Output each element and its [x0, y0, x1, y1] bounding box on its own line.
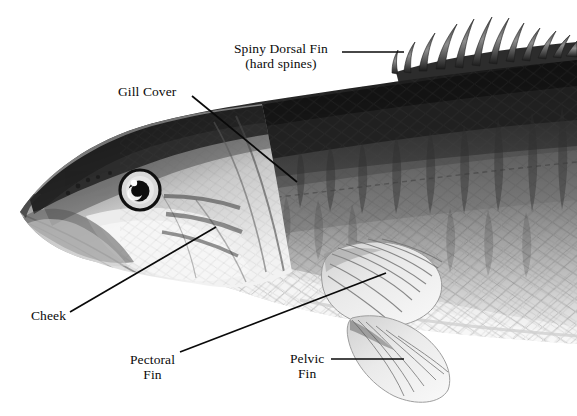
label-pelvic-fin: PelvicFin [290, 351, 324, 381]
label-cheek: Cheek [31, 308, 66, 323]
label-gill-cover: Gill Cover [118, 84, 176, 99]
label-pectoral-fin-line2: Fin [130, 367, 175, 382]
label-spiny-dorsal-fin-line1: Spiny Dorsal Fin [234, 41, 328, 56]
label-spiny-dorsal-fin: Spiny Dorsal Fin(hard spines) [234, 41, 328, 71]
label-pelvic-fin-line1: Pelvic [290, 351, 324, 366]
eye [120, 170, 160, 210]
label-pectoral-fin-line1: Pectoral [130, 352, 175, 367]
label-cheek-line1: Cheek [31, 308, 66, 323]
label-gill-cover-line1: Gill Cover [118, 84, 176, 99]
label-pelvic-fin-line2: Fin [290, 366, 324, 381]
label-pectoral-fin: PectoralFin [130, 352, 175, 382]
fish-head [18, 104, 300, 292]
label-spiny-dorsal-fin-line2: (hard spines) [234, 56, 328, 71]
figure-canvas: Spiny Dorsal Fin(hard spines)Gill CoverC… [0, 0, 577, 416]
